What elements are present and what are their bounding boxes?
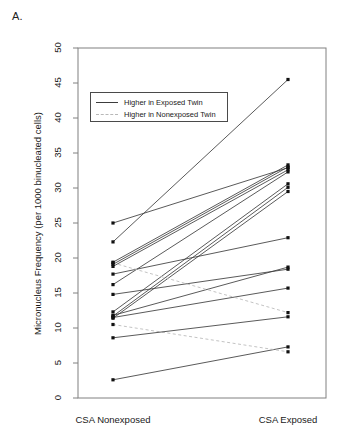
legend-key-solid-line — [96, 102, 118, 103]
pair-line-16 — [113, 317, 288, 338]
data-point-nonexposed-16 — [111, 336, 114, 339]
data-point-nonexposed-6 — [111, 265, 114, 268]
pair-line-5 — [113, 172, 288, 285]
data-point-exposed-12 — [286, 268, 289, 271]
data-point-nonexposed-8 — [111, 283, 114, 286]
legend-entry-nonexposed: Higher in Nonexposed Twin — [96, 108, 216, 121]
legend-label-nonexposed: Higher in Nonexposed Twin — [124, 110, 216, 119]
data-point-exposed-15 — [286, 315, 289, 318]
chart-legend: Higher in Exposed Twin Higher in Nonexpo… — [90, 92, 228, 122]
pair-line-9 — [113, 238, 288, 274]
y-tick-label-20: 20 — [52, 247, 63, 269]
y-tick-label-45: 45 — [52, 72, 63, 94]
y-tick-label-25: 25 — [52, 212, 63, 234]
y-tick-label-10: 10 — [52, 317, 63, 339]
data-point-exposed-17 — [286, 350, 289, 353]
figure-panel-a: A. Micronucleus Frequency (per 1000 binu… — [0, 0, 338, 447]
data-point-nonexposed-2 — [111, 240, 114, 243]
x-tick-label-nonexposed: CSA Nonexposed — [63, 414, 163, 425]
y-tick-label-15: 15 — [52, 282, 63, 304]
pair-line-15 — [113, 325, 288, 352]
legend-key-dashed-line — [96, 114, 118, 115]
data-point-exposed-14 — [286, 311, 289, 314]
pair-line-14 — [113, 263, 288, 313]
pair-line-11 — [113, 269, 288, 294]
pair-line-10 — [113, 267, 288, 315]
data-point-exposed-1 — [286, 78, 289, 81]
y-tick-label-40: 40 — [52, 107, 63, 129]
data-point-exposed-7 — [286, 182, 289, 185]
pair-line-3 — [113, 167, 288, 264]
data-point-nonexposed-15 — [111, 323, 114, 326]
data-point-nonexposed-7 — [111, 273, 114, 276]
data-point-nonexposed-1 — [111, 221, 114, 224]
data-point-exposed-16 — [286, 345, 289, 348]
y-tick-label-50: 50 — [52, 37, 63, 59]
data-point-exposed-6 — [286, 170, 289, 173]
data-point-nonexposed-10 — [111, 310, 114, 313]
pair-line-8 — [113, 192, 288, 319]
pair-line-13 — [113, 347, 288, 380]
data-point-nonexposed-14 — [111, 317, 114, 320]
y-tick-label-0: 0 — [52, 387, 63, 409]
data-point-exposed-9 — [286, 190, 289, 193]
y-tick-label-30: 30 — [52, 177, 63, 199]
pair-line-17 — [113, 168, 288, 223]
legend-label-exposed: Higher in Exposed Twin — [124, 98, 203, 107]
data-point-exposed-10 — [286, 236, 289, 239]
data-point-nonexposed-9 — [111, 293, 114, 296]
y-tick-label-35: 35 — [52, 142, 63, 164]
data-point-exposed-8 — [286, 186, 289, 189]
data-point-exposed-13 — [286, 287, 289, 290]
y-tick-label-5: 5 — [52, 352, 63, 374]
x-tick-label-exposed: CSA Exposed — [238, 414, 338, 425]
data-point-nonexposed-17 — [111, 378, 114, 381]
